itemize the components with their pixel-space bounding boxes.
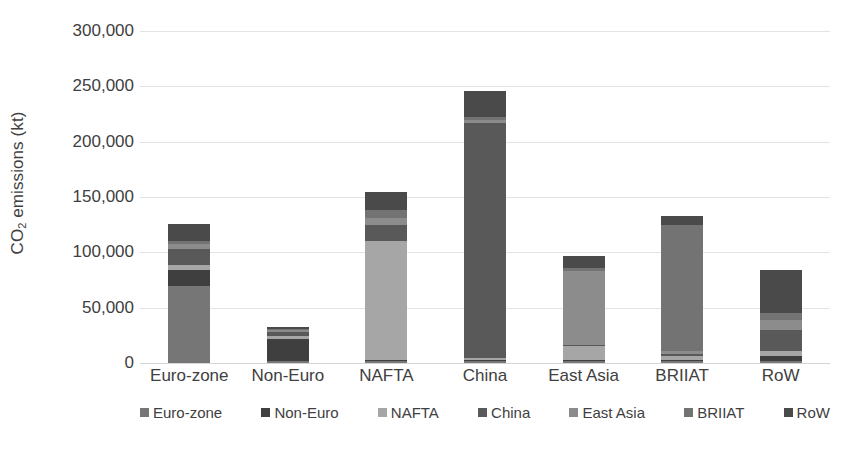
chart-legend: Euro-zoneNon-EuroNAFTAChinaEast AsiaBRII…: [140, 400, 830, 424]
legend-label: China: [491, 404, 530, 421]
x-axis-baseline: [140, 363, 830, 364]
legend-label: BRIIAT: [697, 404, 744, 421]
bar-segment[interactable]: [760, 320, 802, 330]
x-axis-tick-label: China: [436, 366, 535, 386]
legend-label: Euro-zone: [153, 404, 222, 421]
bar-segment[interactable]: [365, 241, 407, 361]
y-axis-title-prefix: CO: [7, 228, 26, 254]
legend-swatch-icon: [378, 408, 387, 417]
x-axis-tick-label: NAFTA: [337, 366, 436, 386]
bar-stack[interactable]: [661, 31, 703, 363]
bar-segment[interactable]: [563, 361, 605, 363]
y-axis-tick-label: 50,000: [40, 298, 134, 318]
bar-segment[interactable]: [168, 249, 210, 264]
bar-segment[interactable]: [267, 339, 309, 361]
y-axis-tick-label: 250,000: [40, 76, 134, 96]
legend-swatch-icon: [261, 408, 270, 417]
bar-segment[interactable]: [365, 210, 407, 218]
bar-segment[interactable]: [464, 361, 506, 363]
y-axis-tick-labels: 300,000250,000200,000150,000100,00050,00…: [36, 31, 134, 363]
bar-stack[interactable]: [365, 31, 407, 363]
bar-segment[interactable]: [760, 361, 802, 363]
legend-swatch-icon: [569, 408, 578, 417]
legend-item[interactable]: NAFTA: [378, 404, 439, 421]
legend-item[interactable]: RoW: [784, 404, 830, 421]
bar-segment[interactable]: [168, 224, 210, 242]
bar-segment[interactable]: [365, 225, 407, 240]
legend-swatch-icon: [478, 408, 487, 417]
x-axis-tick-label: Non-Euro: [239, 366, 338, 386]
legend-label: Non-Euro: [274, 404, 338, 421]
bar-stack[interactable]: [168, 31, 210, 363]
legend-item[interactable]: East Asia: [569, 404, 645, 421]
legend-swatch-icon: [784, 408, 793, 417]
bar-segment[interactable]: [661, 361, 703, 363]
bar-segment[interactable]: [168, 286, 210, 363]
bar-segment[interactable]: [365, 192, 407, 211]
y-axis-tick-label: 300,000: [40, 21, 134, 41]
legend-swatch-icon: [684, 408, 693, 417]
y-axis-tick-label: 150,000: [40, 187, 134, 207]
bar-segment[interactable]: [365, 361, 407, 363]
x-axis-tick-label: BRIIAT: [633, 366, 732, 386]
bar-segment[interactable]: [563, 256, 605, 268]
y-axis-title-suffix: emissions (kt): [7, 111, 26, 222]
x-axis-tick-label: East Asia: [534, 366, 633, 386]
legend-label: RoW: [797, 404, 830, 421]
co2-stacked-bar-chart: CO2 emissions (kt) 300,000250,000200,000…: [0, 0, 847, 463]
bar-segment[interactable]: [760, 270, 802, 313]
bar-segment[interactable]: [365, 218, 407, 225]
bar-segment[interactable]: [563, 346, 605, 360]
bar-segment[interactable]: [760, 330, 802, 351]
bar-segment[interactable]: [760, 313, 802, 320]
bar-segment[interactable]: [168, 270, 210, 285]
y-axis-tick-label: 100,000: [40, 242, 134, 262]
legend-item[interactable]: Euro-zone: [140, 404, 222, 421]
bar-segment[interactable]: [464, 91, 506, 118]
legend-item[interactable]: China: [478, 404, 530, 421]
bar-stack[interactable]: [267, 31, 309, 363]
legend-label: NAFTA: [391, 404, 439, 421]
x-axis-tick-label: Euro-zone: [140, 366, 239, 386]
bar-segment[interactable]: [464, 123, 506, 358]
bar-segment[interactable]: [267, 361, 309, 363]
y-axis-title: CO2 emissions (kt): [0, 0, 34, 365]
bar-segment[interactable]: [661, 225, 703, 351]
y-axis-tick-label: 0: [40, 353, 134, 373]
y-axis-tick-label: 200,000: [40, 132, 134, 152]
legend-label: East Asia: [582, 404, 645, 421]
bar-series-container: [140, 31, 830, 363]
y-axis-title-subscript: 2: [15, 222, 27, 228]
legend-item[interactable]: Non-Euro: [261, 404, 338, 421]
x-axis-tick-labels: Euro-zoneNon-EuroNAFTAChinaEast AsiaBRII…: [140, 366, 830, 392]
bar-stack[interactable]: [563, 31, 605, 363]
x-axis-tick-label: RoW: [731, 366, 830, 386]
legend-item[interactable]: BRIIAT: [684, 404, 744, 421]
bar-stack[interactable]: [760, 31, 802, 363]
bar-stack[interactable]: [464, 31, 506, 363]
bar-segment[interactable]: [563, 271, 605, 345]
legend-swatch-icon: [140, 408, 149, 417]
bar-segment[interactable]: [661, 216, 703, 225]
